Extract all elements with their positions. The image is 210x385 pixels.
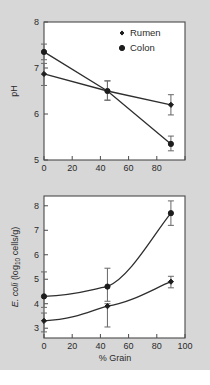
datapoint-colon-bottom[interactable] xyxy=(105,284,110,289)
x-tick-label-top: 0 xyxy=(41,163,46,173)
legend-label-rumen: Rumen xyxy=(130,27,161,38)
y-tick-label-bottom: 8 xyxy=(34,201,39,211)
x-tick-label-top: 40 xyxy=(95,163,105,173)
y-tick-label-bottom: 7 xyxy=(34,225,39,235)
y-tick-label-bottom: 4 xyxy=(34,299,39,309)
x-tick-label-top: 20 xyxy=(67,163,77,173)
y-tick-label-bottom: 6 xyxy=(34,250,39,260)
x-tick-label-bottom: 100 xyxy=(177,341,192,351)
x-tick-label-bottom: 80 xyxy=(152,341,162,351)
x-tick-label-bottom: 40 xyxy=(95,341,105,351)
datapoint-colon-bottom[interactable] xyxy=(168,211,173,216)
x-axis-label: % Grain xyxy=(99,353,132,363)
y-axis-label-top: pH xyxy=(9,85,19,97)
plot-area-top xyxy=(44,22,185,160)
y-tick-label-top: 6 xyxy=(34,109,39,119)
plot-area-bottom xyxy=(44,196,185,338)
svg-text:E. coli (log10 cells/g): E. coli (log10 cells/g) xyxy=(10,227,21,307)
x-tick-label-bottom: 20 xyxy=(67,341,77,351)
x-tick-label-bottom: 60 xyxy=(124,341,134,351)
chart-canvas: 5678020406080345678020406080100pHE. coli… xyxy=(0,0,210,370)
legend-circle-filled-icon xyxy=(119,45,124,50)
x-tick-label-top: 80 xyxy=(152,163,162,173)
x-tick-label-bottom: 0 xyxy=(41,341,46,351)
y-axis-label-bottom: E. coli (log10 cells/g) xyxy=(10,227,21,307)
x-tick-label-top: 60 xyxy=(124,163,134,173)
datapoint-colon-top[interactable] xyxy=(41,49,46,54)
y-tick-label-top: 7 xyxy=(34,63,39,73)
y-tick-label-top: 5 xyxy=(34,155,39,165)
y-tick-label-bottom: 3 xyxy=(34,323,39,333)
datapoint-colon-top[interactable] xyxy=(168,141,173,146)
y-tick-label-top: 8 xyxy=(34,17,39,27)
legend-label-colon: Colon xyxy=(130,42,155,53)
y-tick-label-bottom: 5 xyxy=(34,274,39,284)
datapoint-colon-bottom[interactable] xyxy=(41,294,46,299)
figure-panel: 5678020406080345678020406080100pHE. coli… xyxy=(0,0,210,370)
